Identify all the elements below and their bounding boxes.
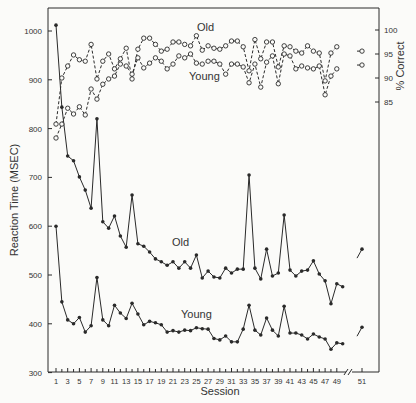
x-tick-label: 37: [262, 377, 270, 386]
open-marker: [66, 106, 70, 110]
open-marker: [229, 39, 233, 43]
open-marker: [300, 64, 304, 68]
label-old-accuracy: Old: [197, 21, 214, 33]
filled-marker: [195, 326, 199, 330]
x-tick-label: 33: [239, 377, 247, 386]
open-marker: [311, 49, 315, 53]
filled-marker: [317, 335, 321, 339]
filled-marker: [341, 285, 345, 289]
filled-marker: [124, 245, 128, 249]
open-marker: [311, 67, 315, 71]
x-axis: 1357911131517192123252729313335373941434…: [54, 368, 366, 386]
open-marker: [294, 67, 298, 71]
open-marker: [124, 64, 128, 68]
y-tick-label: 600: [29, 222, 43, 231]
open-marker: [200, 48, 204, 52]
open-marker: [282, 52, 286, 56]
filled-marker: [259, 277, 263, 281]
filled-marker: [212, 337, 216, 341]
x-tick-label: 19: [157, 377, 165, 386]
filled-marker: [60, 300, 64, 304]
open-marker: [294, 49, 298, 53]
filled-marker: [277, 334, 281, 338]
filled-marker: [259, 333, 263, 337]
filled-marker: [89, 206, 93, 210]
x-tick-label: 23: [181, 377, 189, 386]
open-marker: [54, 136, 58, 140]
open-marker: [147, 61, 151, 65]
open-marker: [288, 45, 292, 49]
filled-marker: [282, 213, 286, 217]
open-marker: [147, 36, 151, 40]
open-marker: [360, 49, 364, 53]
y-tick-label: 300: [29, 369, 43, 378]
open-marker: [83, 59, 87, 63]
filled-marker: [224, 334, 228, 338]
open-marker: [206, 44, 210, 48]
filled-marker: [360, 247, 364, 251]
filled-marker: [54, 23, 58, 27]
filled-marker: [224, 266, 228, 270]
reaction-time-accuracy-chart: 3004005006007008009001000 859095100 1357…: [0, 0, 416, 403]
filled-marker: [200, 276, 204, 280]
open-marker: [317, 51, 321, 55]
open-marker: [106, 77, 110, 81]
open-marker: [165, 67, 169, 71]
open-marker: [159, 49, 163, 53]
filled-marker: [189, 329, 193, 333]
filled-marker: [335, 282, 339, 286]
filled-marker: [78, 175, 82, 179]
open-marker: [335, 45, 339, 49]
open-marker: [130, 77, 134, 81]
filled-marker: [212, 275, 216, 279]
y2-tick-label: 95: [384, 50, 393, 59]
x-tick-label: 35: [251, 377, 259, 386]
filled-marker: [83, 188, 87, 192]
filled-marker: [236, 267, 240, 271]
open-marker: [194, 34, 198, 38]
y2-axis-title: % Correct: [394, 42, 406, 91]
filled-marker: [341, 342, 345, 346]
y2-tick-label: 100: [384, 26, 398, 35]
x-tick-label: 5: [77, 377, 81, 386]
filled-marker: [72, 322, 76, 326]
x-tick-label: 43: [298, 377, 306, 386]
label-old-rt: Old: [172, 236, 189, 248]
filled-marker: [171, 260, 175, 264]
open-marker: [223, 44, 227, 48]
filled-marker: [288, 331, 292, 335]
open-marker: [270, 40, 274, 44]
open-marker: [329, 74, 333, 78]
open-marker: [276, 65, 280, 69]
open-marker: [95, 77, 99, 81]
open-marker: [60, 122, 64, 126]
y2-tick-label: 90: [384, 74, 393, 83]
filled-marker: [247, 303, 251, 307]
open-marker: [183, 42, 187, 46]
filled-marker: [95, 117, 99, 121]
x-tick-label: 15: [134, 377, 142, 386]
x-tick-label: 45: [309, 377, 317, 386]
filled-marker: [218, 338, 222, 342]
filled-marker: [160, 323, 164, 327]
open-marker: [317, 64, 321, 68]
open-marker: [124, 46, 128, 50]
filled-marker: [101, 220, 105, 224]
open-marker: [136, 47, 140, 51]
open-marker: [218, 47, 222, 51]
filled-marker: [329, 347, 333, 351]
open-marker: [54, 122, 58, 126]
open-marker: [153, 42, 157, 46]
filled-marker: [329, 302, 333, 306]
open-marker: [194, 61, 198, 65]
filled-marker: [142, 244, 146, 248]
open-marker: [71, 112, 75, 116]
label-young-accuracy: Young: [189, 70, 220, 82]
x-tick-label: 9: [101, 377, 105, 386]
open-marker: [282, 44, 286, 48]
open-marker: [323, 79, 327, 83]
open-marker: [288, 54, 292, 58]
filled-marker: [312, 259, 316, 263]
open-marker: [71, 53, 75, 57]
x-tick-label: 17: [145, 377, 153, 386]
